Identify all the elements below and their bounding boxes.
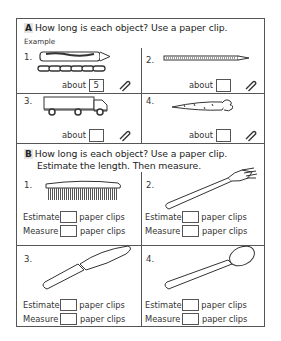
paper-clip-icon <box>244 80 256 90</box>
pencil-image <box>163 54 253 64</box>
example-label: Example <box>24 37 55 46</box>
divider <box>141 172 142 327</box>
answer-row: about <box>62 129 104 142</box>
paper-clip-icon <box>118 80 130 90</box>
estimate-box[interactable] <box>182 211 199 223</box>
answer-row: about <box>189 129 231 142</box>
answer-box[interactable]: 5 <box>89 79 104 92</box>
section-b-title: BHow long is each object? Use a paper cl… <box>24 148 227 159</box>
divider <box>17 93 264 94</box>
divider <box>141 48 142 143</box>
section-b-badge: B <box>24 149 33 159</box>
divider <box>17 143 264 144</box>
crayon-image <box>36 50 116 76</box>
answer-row: about <box>189 79 231 92</box>
knife-image <box>40 246 140 292</box>
paper-clip-icon <box>244 130 256 140</box>
comb-image <box>44 180 124 202</box>
section-a-badge: A <box>24 23 33 33</box>
answer-box[interactable] <box>216 129 231 142</box>
measure-box[interactable] <box>60 225 77 237</box>
fork-image <box>162 168 262 212</box>
answer-box[interactable] <box>216 79 231 92</box>
carrot-image <box>170 98 236 114</box>
answer-row: about 5 <box>62 79 104 92</box>
truck-image <box>42 95 110 117</box>
estimate-box[interactable] <box>182 299 199 311</box>
paper-clip-icon <box>118 130 130 140</box>
section-a-title: AHow long is each object? Use a paper cl… <box>24 22 227 33</box>
measure-box[interactable] <box>182 225 199 237</box>
measure-box[interactable] <box>182 313 199 325</box>
estimate-box[interactable] <box>60 299 77 311</box>
estimate-box[interactable] <box>60 211 77 223</box>
measure-box[interactable] <box>60 313 77 325</box>
spoon-image <box>162 246 262 292</box>
answer-box[interactable] <box>89 129 104 142</box>
